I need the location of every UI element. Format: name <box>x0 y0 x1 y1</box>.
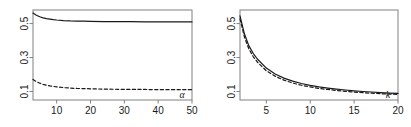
y-tick-label: 0.5 <box>20 16 31 30</box>
x-tick-label: 5 <box>264 105 270 116</box>
x-tick-label: 10 <box>305 105 317 116</box>
series-line-solid <box>33 13 192 22</box>
y-tick-label: 0.5 <box>227 16 238 30</box>
y-tick-label: 0.1 <box>20 84 31 98</box>
left-plot-svg: 10203040500.10.30.5α <box>0 0 205 127</box>
x-axis-title: α <box>179 89 185 100</box>
x-tick-label: 40 <box>153 105 165 116</box>
x-tick-label: 10 <box>51 105 63 116</box>
y-tick-label: 0.3 <box>20 50 31 64</box>
x-tick-label: 50 <box>186 105 198 116</box>
series-line-dashed <box>33 79 192 89</box>
series-line-solid <box>240 16 398 93</box>
x-tick-label: 20 <box>85 105 97 116</box>
x-tick-label: 30 <box>119 105 131 116</box>
chart-panel-left: 10203040500.10.30.5α <box>0 0 205 127</box>
x-tick-label: 15 <box>349 105 361 116</box>
chart-panel-right: 51015200.10.30.5k <box>205 0 410 127</box>
series-line-dashed <box>240 19 398 95</box>
y-tick-label: 0.1 <box>227 84 238 98</box>
y-tick-label: 0.3 <box>227 50 238 64</box>
right-plot-svg: 51015200.10.30.5k <box>205 0 410 127</box>
x-tick-label: 20 <box>392 105 404 116</box>
two-panel-line-chart-figure: 10203040500.10.30.5α 51015200.10.30.5k <box>0 0 411 127</box>
